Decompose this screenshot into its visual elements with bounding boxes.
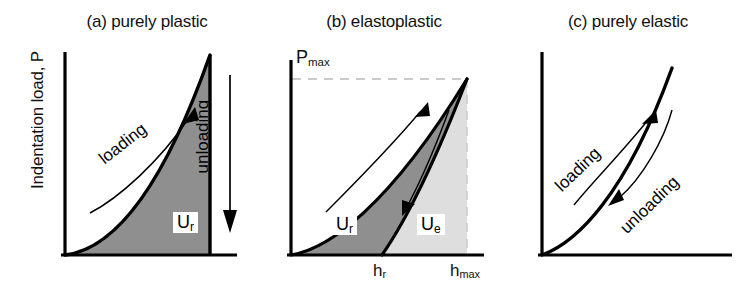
panel-b-hmax-subscript: max [459,268,480,280]
y-axis-label: Indentation load, P [28,20,48,220]
panel-b-area-label-ue: Ue [417,214,445,235]
panel-a-area-label-ur: Ur [173,212,198,233]
panel-b-xtick-hr: hr [373,262,386,279]
panel-b-ue-subscript: e [434,222,441,236]
panel-a-unloading-annotation: unloading [194,100,211,174]
panel-a-unloading-arrow [223,75,237,233]
panel-c-purely-elastic: (c) purely elastic loading unloading [520,0,736,296]
panel-c-loading-unloading-curve [542,68,672,255]
panel-a-plot [47,0,247,296]
indentation-load-displacement-figure: Indentation load, P (a) purely plastic [0,0,746,296]
panel-b-hr-subscript: r [382,268,386,280]
panel-b-elastoplastic: (b) elastoplastic [278,0,490,296]
panel-b-area-label-ur: Ur [332,214,357,235]
panel-b-ur-subscript: r [349,222,353,236]
panel-a-ur-symbol: U [177,212,190,232]
panel-b-pmax-subscript: max [308,56,330,68]
panel-a-purely-plastic: (a) purely plastic loading unlo [47,0,247,296]
panel-b-plot [278,0,490,296]
panel-a-ur-subscript: r [190,220,194,234]
panel-b-ur-symbol: U [336,214,349,234]
panel-b-xtick-hmax: hmax [450,262,480,279]
panel-b-pmax-label: Pmax [296,48,330,66]
panel-b-ue-symbol: U [421,214,434,234]
panel-b-pmax-symbol: P [296,47,308,67]
panel-c-plot [520,0,736,296]
